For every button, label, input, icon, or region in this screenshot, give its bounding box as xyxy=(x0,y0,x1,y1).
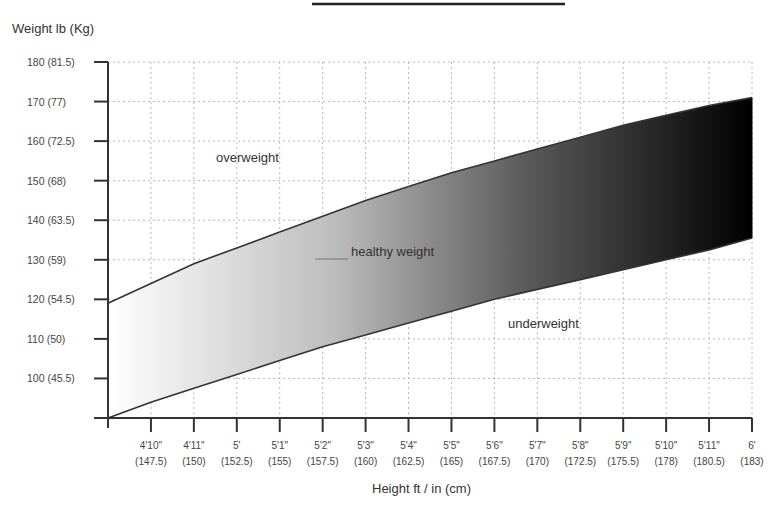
y-tick-label: 110 (50) xyxy=(27,333,65,345)
x-tick-label-ft: 5'10" xyxy=(655,440,678,451)
x-tick-label-cm: (167.5) xyxy=(479,456,511,467)
y-tick-label: 180 (81.5) xyxy=(27,56,75,68)
x-tick-label-cm: (152.5) xyxy=(221,456,253,467)
x-tick-label-cm: (162.5) xyxy=(393,456,425,467)
underweight-label: underweight xyxy=(508,316,579,331)
x-tick-label-ft: 5'3" xyxy=(357,440,374,451)
x-tick-label-ft: 5'2" xyxy=(314,440,331,451)
weight-height-chart: Weight lb (Kg) 180 (81.5)170 (77)160 (72… xyxy=(0,0,781,514)
y-axis-ticks: 180 (81.5)170 (77)160 (72.5)150 (68)140 … xyxy=(27,56,108,384)
x-axis-title: Height ft / in (cm) xyxy=(372,481,471,496)
x-tick-label-ft: 5'5" xyxy=(443,440,460,451)
y-tick-label: 130 (59) xyxy=(27,254,66,266)
y-axis-title: Weight lb (Kg) xyxy=(12,21,94,36)
x-tick-label-cm: (178) xyxy=(654,456,677,467)
x-tick-label-ft: 4'10" xyxy=(140,440,163,451)
x-tick-label-cm: (172.5) xyxy=(564,456,596,467)
x-tick-label-ft: 5'1" xyxy=(271,440,288,451)
x-tick-label-ft: 5'8" xyxy=(572,440,589,451)
x-axis-ticks: 4'10"(147.5)4'11"(150)5'(152.5)5'1"(155)… xyxy=(135,418,764,467)
x-tick-label-cm: (155) xyxy=(268,456,291,467)
x-tick-label-cm: (165) xyxy=(440,456,463,467)
x-tick-label-cm: (160) xyxy=(354,456,377,467)
y-tick-label: 150 (68) xyxy=(27,175,66,187)
y-tick-label: 140 (63.5) xyxy=(27,214,75,226)
y-tick-label: 160 (72.5) xyxy=(27,135,75,147)
x-tick-label-ft: 5'9" xyxy=(615,440,632,451)
y-tick-label: 170 (77) xyxy=(27,96,66,108)
healthy-weight-label: healthy weight xyxy=(351,244,434,259)
x-tick-label-ft: 5'6" xyxy=(486,440,503,451)
x-tick-label-cm: (170) xyxy=(526,456,549,467)
x-tick-label-cm: (150) xyxy=(182,456,205,467)
x-tick-label-ft: 5' xyxy=(233,440,241,451)
y-tick-label: 100 (45.5) xyxy=(27,372,75,384)
x-tick-label-ft: 6' xyxy=(748,440,756,451)
x-tick-label-cm: (183) xyxy=(740,456,763,467)
x-tick-label-cm: (180.5) xyxy=(693,456,725,467)
overweight-label: overweight xyxy=(216,150,279,165)
x-tick-label-ft: 5'4" xyxy=(400,440,417,451)
x-tick-label-cm: (147.5) xyxy=(135,456,167,467)
x-tick-label-ft: 5'7" xyxy=(529,440,546,451)
y-tick-label: 120 (54.5) xyxy=(27,293,75,305)
x-tick-label-ft: 4'11" xyxy=(183,440,205,451)
x-tick-label-cm: (157.5) xyxy=(307,456,339,467)
x-tick-label-ft: 5'11" xyxy=(698,440,720,451)
x-tick-label-cm: (175.5) xyxy=(607,456,639,467)
